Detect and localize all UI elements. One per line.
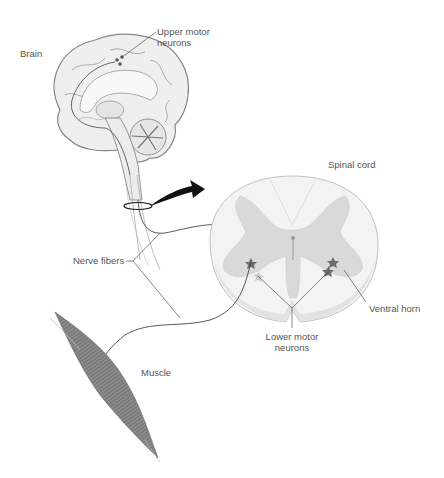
label-ventral-horn: Ventral horn bbox=[369, 303, 420, 314]
label-nerve-fibers: Nerve fibers bbox=[73, 255, 124, 266]
label-lower-motor-neurons: Lower motor neurons bbox=[262, 331, 322, 353]
arrow-icon bbox=[150, 180, 205, 206]
brain-illustration bbox=[54, 32, 188, 200]
label-upper-motor-neurons-line1: Upper motor bbox=[157, 26, 210, 37]
label-lower-motor-neurons-line1: Lower motor bbox=[262, 331, 322, 342]
nerve-fibers-leaders bbox=[126, 233, 180, 318]
label-lower-motor-neurons-line2: neurons bbox=[262, 342, 322, 353]
label-upper-motor-neurons: Upper motor neurons bbox=[157, 26, 210, 48]
label-spinal-cord: Spinal cord bbox=[328, 159, 376, 170]
label-muscle: Muscle bbox=[141, 367, 171, 378]
label-upper-motor-neurons-line2: neurons bbox=[157, 37, 210, 48]
muscle-illustration bbox=[50, 312, 160, 462]
label-brain: Brain bbox=[20, 48, 42, 59]
diagram-canvas bbox=[0, 0, 444, 478]
spinal-cord-section bbox=[210, 176, 378, 322]
motor-pathway-diagram: Brain Upper motor neurons Spinal cord Ne… bbox=[0, 0, 444, 478]
